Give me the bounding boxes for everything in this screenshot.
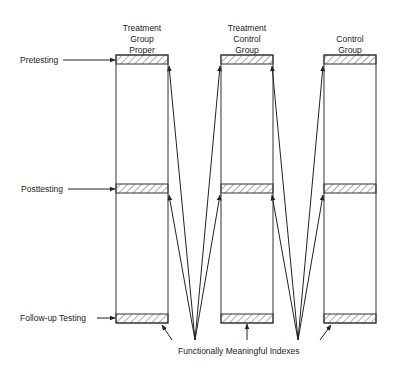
header-line: Treatment: [102, 23, 182, 34]
group-header-treatment-control: Treatment Control Group: [207, 23, 287, 56]
pretest-band-3: [324, 55, 376, 64]
header-line: Control: [207, 34, 287, 45]
posttest-band-1: [116, 184, 168, 193]
pretest-band-1: [116, 55, 168, 64]
header-line: Group: [102, 34, 182, 45]
index-arrows-2: [272, 66, 331, 340]
footer-label: Functionally Meaningful Indexes: [178, 346, 299, 357]
header-line: Proper: [102, 45, 182, 56]
followup-band-3: [324, 314, 376, 323]
header-line: Group: [207, 45, 287, 56]
pretest-band-2: [221, 55, 273, 64]
group-header-control: Control Group: [310, 34, 390, 56]
phase-label-pretesting: Pretesting: [20, 55, 58, 66]
group-header-treatment-proper: Treatment Group Proper: [102, 23, 182, 56]
posttest-band-3: [324, 184, 376, 193]
header-line: Group: [310, 45, 390, 56]
phase-arrows: [63, 60, 115, 318]
header-line: Control: [310, 34, 390, 45]
phase-label-posttesting: Posttesting: [21, 184, 63, 195]
index-arrows-1: [162, 66, 220, 340]
followup-band-1: [116, 314, 168, 323]
group-box-treatment-control: [221, 55, 273, 323]
group-box-control: [324, 55, 376, 323]
group-box-treatment-proper: [116, 55, 168, 323]
followup-band-2: [221, 314, 273, 323]
header-line: Treatment: [207, 23, 287, 34]
phase-label-followup: Follow-up Testing: [20, 313, 86, 324]
posttest-band-2: [221, 184, 273, 193]
